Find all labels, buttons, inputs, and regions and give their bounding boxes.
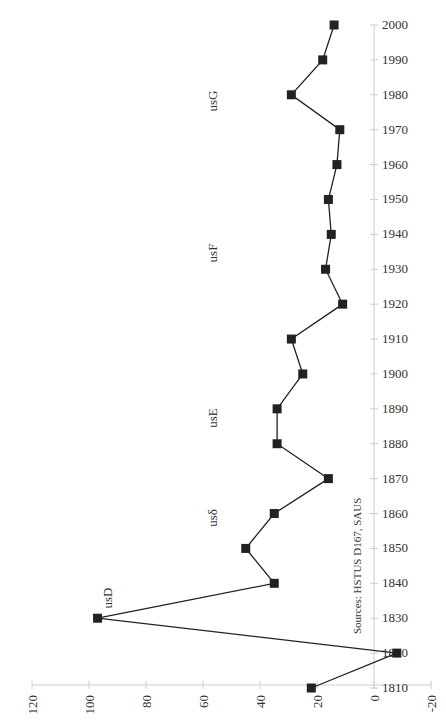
data-point-marker	[330, 21, 339, 30]
data-point-marker	[241, 544, 250, 553]
year-tick-label: 1830	[382, 610, 408, 625]
data-point-marker	[307, 684, 316, 693]
year-tick-label: 1810	[382, 680, 408, 695]
line-chart: 120100806040200-201810182018301840185018…	[0, 0, 446, 724]
year-tick-label: 1900	[382, 366, 408, 381]
data-point-marker	[392, 649, 401, 658]
year-tick-label: 1950	[382, 191, 408, 206]
year-tick-label: 1910	[382, 331, 408, 346]
value-tick-label: 0	[367, 695, 382, 702]
year-tick-label: 1870	[382, 471, 408, 486]
year-tick-label: 2000	[382, 17, 408, 32]
data-point-marker	[327, 230, 336, 239]
value-tick-label: 80	[139, 695, 154, 708]
annotations: usDusδusEusFusGSources: HSTUS D167, SAUS	[100, 91, 363, 634]
annotation-label: usE	[205, 408, 220, 428]
annotation-label: usD	[100, 588, 115, 609]
annotation-label: usδ	[205, 509, 220, 527]
data-point-marker	[324, 195, 333, 204]
data-point-marker	[270, 509, 279, 518]
year-tick-label: 1930	[382, 261, 408, 276]
data-point-marker	[338, 300, 347, 309]
data-point-marker	[324, 474, 333, 483]
year-tick-label: 1940	[382, 226, 408, 241]
year-tick-label: 1880	[382, 436, 408, 451]
year-tick-label: 1960	[382, 157, 408, 172]
annotation-label: usF	[205, 244, 220, 263]
data-point-marker	[332, 160, 341, 169]
value-tick-label: 20	[310, 695, 325, 708]
data-point-marker	[321, 265, 330, 274]
year-tick-label: 1920	[382, 296, 408, 311]
value-tick-label: 60	[196, 695, 211, 708]
source-note: Sources: HSTUS D167, SAUS	[351, 498, 363, 634]
year-tick-label: 1970	[382, 122, 408, 137]
year-tick-label: 1890	[382, 401, 408, 416]
data-point-marker	[287, 90, 296, 99]
year-tick-label: 1980	[382, 87, 408, 102]
data-point-marker	[273, 404, 282, 413]
year-tick-label: 1990	[382, 52, 408, 67]
data-point-marker	[273, 439, 282, 448]
annotation-label: usG	[205, 91, 220, 112]
value-tick-label: 40	[253, 695, 268, 708]
year-tick-label: 1840	[382, 575, 408, 590]
axes: 120100806040200-201810182018301840185018…	[25, 17, 439, 715]
data-point-marker	[318, 55, 327, 64]
value-tick-label: 100	[82, 695, 97, 715]
data-point-marker	[335, 125, 344, 134]
chart-canvas: 120100806040200-201810182018301840185018…	[0, 0, 446, 724]
year-tick-label: 1860	[382, 506, 408, 521]
year-tick-label: 1850	[382, 540, 408, 555]
data-point-marker	[298, 369, 307, 378]
value-tick-label: -20	[424, 695, 439, 712]
data-point-marker	[287, 335, 296, 344]
data-point-marker	[270, 579, 279, 588]
value-tick-label: 120	[25, 695, 40, 715]
data-point-marker	[93, 614, 102, 623]
